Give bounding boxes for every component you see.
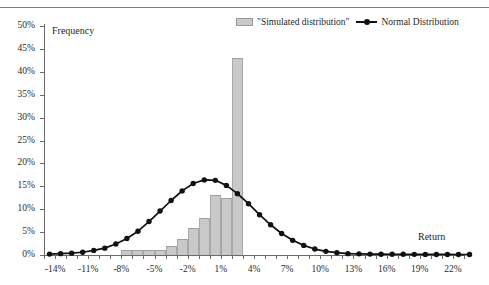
x-axis-tick [464, 255, 465, 259]
y-axis-tick-label: 30% [0, 113, 35, 123]
legend-label-normal: Normal Distribution [381, 17, 458, 27]
histogram-bar [177, 239, 188, 255]
x-axis-tick-label: -2% [180, 265, 196, 275]
x-axis-tick [309, 255, 310, 259]
histogram-bar [232, 58, 243, 255]
x-axis-tick-label: -8% [113, 265, 129, 275]
x-axis-tick [453, 255, 454, 259]
x-axis-tick-label: -11% [78, 265, 98, 275]
legend-entry-simulated: "Simulated distribution" [236, 17, 349, 27]
x-axis-tick [376, 255, 377, 259]
x-axis-tick [331, 255, 332, 259]
x-axis-tick [99, 255, 100, 259]
x-axis-tick [88, 255, 89, 259]
x-axis-tick-label: 1% [214, 265, 227, 275]
histogram-bar [221, 198, 232, 255]
x-axis-tick-label: 10% [312, 265, 329, 275]
frequency-distribution-chart: 0%5%10%15%20%25%30%35%40%45%50% -14%-11%… [0, 0, 489, 285]
x-axis-tick [188, 255, 189, 259]
x-axis-tick [243, 255, 244, 259]
x-axis-tick [431, 255, 432, 259]
y-axis-tick-label: 10% [0, 204, 35, 214]
histogram-bar [155, 250, 166, 255]
x-axis-tick [221, 255, 222, 259]
y-axis-tick-label: 15% [0, 181, 35, 191]
x-axis-tick-label: 13% [345, 265, 362, 275]
histogram-bar [199, 218, 210, 255]
x-axis-tick [66, 255, 67, 259]
x-axis-tick [287, 255, 288, 259]
chart-legend: "Simulated distribution" Normal Distribu… [236, 17, 459, 27]
x-axis-tick [420, 255, 421, 259]
x-axis-tick [121, 255, 122, 259]
bar-swatch-icon [236, 18, 253, 26]
x-axis-tick [298, 255, 299, 259]
x-axis-tick [55, 255, 56, 259]
histogram-bar [210, 195, 221, 255]
x-axis-tick-label: 4% [248, 265, 261, 275]
y-axis-tick-label: 25% [0, 136, 35, 146]
line-data-point [467, 252, 472, 257]
x-axis-tick [77, 255, 78, 259]
y-axis-title: Frequency [52, 26, 94, 36]
histogram-bar [143, 250, 154, 255]
x-axis-tick [199, 255, 200, 259]
x-axis-tick [409, 255, 410, 259]
x-axis-tick-label: 16% [378, 265, 395, 275]
x-axis-tick [265, 255, 266, 259]
x-axis-tick [210, 255, 211, 259]
y-axis-tick-label: 40% [0, 67, 35, 77]
x-axis-tick-label: 19% [411, 265, 428, 275]
x-axis-title: Return [418, 232, 445, 242]
x-axis-tick [442, 255, 443, 259]
x-axis-tick [177, 255, 178, 259]
histogram-bar [132, 250, 143, 255]
histogram-bar [188, 228, 199, 255]
y-axis-tick-label: 50% [0, 21, 35, 31]
x-axis-tick [44, 255, 45, 259]
x-axis-tick [110, 255, 111, 259]
x-axis-tick [320, 255, 321, 259]
legend-entry-normal: Normal Distribution [356, 17, 458, 27]
plot-area [44, 26, 464, 255]
x-axis-tick [353, 255, 354, 259]
x-axis-tick [166, 255, 167, 259]
y-axis-tick-label: 5% [0, 227, 35, 237]
y-axis-tick-label: 0% [0, 250, 35, 260]
x-axis-tick [232, 255, 233, 259]
x-axis-tick [276, 255, 277, 259]
x-axis-tick-label: 22% [444, 265, 461, 275]
x-axis-tick [143, 255, 144, 259]
x-axis-tick-label: 7% [281, 265, 294, 275]
x-axis-tick-label: -14% [45, 265, 66, 275]
x-axis-tick [365, 255, 366, 259]
x-axis-tick [155, 255, 156, 259]
histogram-bar [121, 250, 132, 255]
y-axis-tick-label: 35% [0, 90, 35, 100]
x-axis-tick [132, 255, 133, 259]
legend-label-simulated: "Simulated distribution" [257, 17, 349, 27]
y-axis-tick-label: 45% [0, 44, 35, 54]
x-axis-tick [387, 255, 388, 259]
x-axis-tick [398, 255, 399, 259]
histogram-bar [166, 246, 177, 255]
x-axis-tick [342, 255, 343, 259]
x-axis-tick [254, 255, 255, 259]
x-axis-tick-label: -5% [147, 265, 163, 275]
y-axis-tick-label: 20% [0, 158, 35, 168]
line-marker-icon [356, 18, 377, 26]
